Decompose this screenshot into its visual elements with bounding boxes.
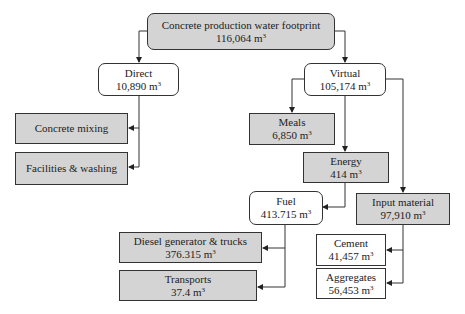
node-direct-value: 10,890 m	[116, 80, 158, 92]
node-energy-value: 414 m	[330, 168, 358, 180]
node-meals: Meals 6,850 m3	[249, 113, 335, 145]
node-input-material: Input material 97,910 m3	[356, 193, 450, 225]
node-root-label: Concrete production water footprint	[162, 19, 321, 32]
node-direct-label: Direct	[125, 67, 152, 80]
node-concrete-mixing: Concrete mixing	[15, 113, 128, 144]
node-diesel: Diesel generator & trucks 376.315 m3	[119, 232, 262, 263]
node-input-material-label: Input material	[372, 196, 434, 209]
node-fuel-value: 413.715 m	[261, 208, 308, 220]
node-transports-label: Transports	[165, 273, 212, 286]
node-virtual-value: 105,174 m	[320, 80, 367, 92]
node-virtual: Virtual 105,174 m3	[304, 63, 386, 96]
node-facilities-washing-label: Facilities & washing	[26, 162, 117, 175]
node-concrete-mixing-label: Concrete mixing	[35, 122, 109, 135]
node-meals-label: Meals	[279, 116, 306, 129]
node-direct: Direct 10,890 m3	[98, 63, 179, 96]
node-diesel-label: Diesel generator & trucks	[134, 235, 247, 248]
node-energy: Energy 414 m3	[303, 152, 389, 183]
node-root-value: 116,064 m	[216, 32, 263, 44]
node-cement-label: Cement	[334, 237, 368, 250]
node-transports: Transports 37.4 m3	[119, 270, 257, 301]
node-aggregates-value: 56,453 m	[328, 284, 370, 296]
node-aggregates: Aggregates 56,453 m3	[316, 268, 386, 299]
node-facilities-washing: Facilities & washing	[15, 152, 128, 185]
node-cement: Cement 41,457 m3	[316, 234, 386, 266]
node-energy-label: Energy	[330, 155, 362, 168]
node-input-material-value: 97,910 m	[380, 209, 422, 221]
node-fuel: Fuel 413.715 m3	[249, 191, 323, 225]
node-cement-value: 41,457 m	[328, 250, 370, 262]
node-virtual-label: Virtual	[330, 67, 361, 80]
node-meals-value: 6,850 m	[272, 129, 308, 141]
node-transports-value: 37.4 m	[171, 286, 202, 298]
node-aggregates-label: Aggregates	[326, 271, 376, 284]
node-root: Concrete production water footprint 116,…	[147, 13, 335, 50]
node-diesel-value: 376.315 m	[165, 248, 212, 260]
node-fuel-label: Fuel	[276, 195, 296, 208]
